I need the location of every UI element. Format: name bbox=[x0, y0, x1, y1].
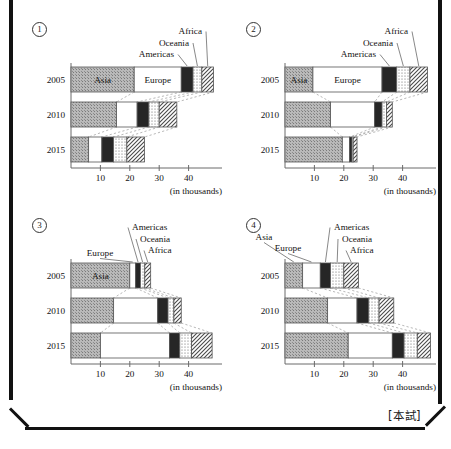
chart-4-connector-line bbox=[320, 288, 357, 298]
chart-1-inbar-label-europe: Europe bbox=[144, 75, 171, 85]
chart-4-bar-row: 2005 bbox=[261, 263, 359, 288]
page-frame-left-rule bbox=[9, 0, 13, 400]
chart-3-segment-africa bbox=[145, 263, 151, 288]
chart-1-connector-line bbox=[145, 127, 177, 137]
chart-panel-2: 2 10203040(in thousands)200520102015Asia… bbox=[236, 12, 446, 207]
chart-1-segment-asia bbox=[71, 137, 89, 162]
chart-2-xtick-30: 30 bbox=[369, 173, 379, 183]
chart-1-segment-oceania bbox=[114, 137, 127, 162]
chart-4-segment-oceania bbox=[404, 333, 417, 358]
chart-2-xtick-10: 10 bbox=[310, 173, 320, 183]
chart-3-segment-europe bbox=[100, 333, 169, 358]
chart-1-xtick-30: 30 bbox=[155, 173, 165, 183]
chart-4-segment-europe bbox=[348, 333, 392, 358]
chart-3-bar-row: 2010 bbox=[47, 298, 182, 323]
chart-3-callout-africa: Africa bbox=[148, 245, 171, 255]
chart-1-xtick-40: 40 bbox=[184, 173, 194, 183]
chart-3-leader-line bbox=[100, 259, 133, 263]
chart-1-segment-oceania bbox=[149, 102, 159, 127]
chart-3-connector-line bbox=[158, 323, 170, 333]
chart-4-segment-africa bbox=[344, 263, 359, 288]
page-frame-corner-bottom-left bbox=[8, 409, 33, 431]
chart-2-segment-africa bbox=[353, 137, 357, 162]
chart-2-plot: 10203040(in thousands)200520102015AsiaEu… bbox=[236, 12, 446, 207]
chart-3-connector-line bbox=[151, 288, 182, 298]
chart-1-bar-row: 2010 bbox=[47, 102, 177, 127]
chart-2-xtick-40: 40 bbox=[398, 173, 408, 183]
chart-3-connector-line bbox=[100, 323, 113, 333]
chart-4-xtick-10: 10 bbox=[310, 369, 320, 379]
chart-4-segment-oceania bbox=[369, 298, 379, 323]
chart-2-connector-line bbox=[353, 127, 386, 137]
chart-2-connector-line bbox=[386, 92, 410, 102]
chart-3-segment-americas bbox=[136, 263, 141, 288]
chart-2-segment-europe bbox=[331, 102, 375, 127]
chart-2-svg: 10203040(in thousands)200520102015AsiaEu… bbox=[236, 12, 446, 207]
chart-3-xtick-20: 20 bbox=[125, 369, 135, 379]
chart-3-callout-europe: Europe bbox=[87, 248, 114, 258]
chart-3-connector-line bbox=[114, 288, 130, 298]
chart-3-year-label: 2005 bbox=[47, 271, 66, 281]
chart-4-callout-africa: Africa bbox=[350, 245, 373, 255]
chart-1-callout-americas: Americas bbox=[139, 49, 175, 59]
chart-1-segment-africa bbox=[202, 67, 214, 92]
chart-4-callout-asia: Asia bbox=[256, 232, 273, 242]
chart-1-units-caption: (in thousands) bbox=[170, 186, 222, 196]
chart-1-leader-line bbox=[178, 55, 187, 67]
chart-3-segment-asia bbox=[71, 298, 114, 323]
chart-3-connector-line bbox=[145, 288, 174, 298]
chart-4-segment-europe bbox=[303, 263, 321, 288]
chart-3-segment-africa bbox=[174, 298, 181, 323]
chart-4-segment-americas bbox=[357, 298, 369, 323]
chart-2-callout-africa: Africa bbox=[385, 26, 408, 36]
chart-2-callout-oceania: Oceania bbox=[363, 38, 393, 48]
chart-4-segment-oceania bbox=[331, 263, 344, 288]
chart-3-segment-europe bbox=[114, 298, 158, 323]
chart-4-connector-line bbox=[328, 323, 349, 333]
chart-2-segment-oceania bbox=[397, 67, 410, 92]
chart-1-segment-europe bbox=[117, 102, 138, 127]
chart-2-bar-row: 2015 bbox=[261, 137, 357, 162]
chart-2-segment-africa bbox=[410, 67, 428, 92]
chart-1-segment-americas bbox=[102, 137, 114, 162]
chart-4-segment-asia bbox=[285, 333, 348, 358]
chart-2-bar-row: 2010 bbox=[261, 102, 393, 127]
chart-2-leader-line bbox=[412, 32, 419, 67]
source-stamp: [本試] bbox=[388, 407, 421, 423]
chart-3-connector-line bbox=[181, 323, 212, 333]
chart-1-segment-europe bbox=[89, 137, 102, 162]
chart-4-connector-line bbox=[359, 288, 394, 298]
chart-2-callout-americas: Americas bbox=[341, 49, 377, 59]
chart-2-year-label: 2010 bbox=[261, 110, 280, 120]
chart-1-year-label: 2005 bbox=[47, 75, 66, 85]
chart-4-svg: 10203040(in thousands)200520102015AsiaEu… bbox=[236, 208, 446, 403]
chart-1-inbar-label-asia: Asia bbox=[94, 75, 111, 85]
chart-3-segment-africa bbox=[192, 333, 213, 358]
chart-1-leader-line bbox=[193, 43, 197, 66]
chart-3-bar-row: 2015 bbox=[47, 333, 212, 358]
chart-3-year-label: 2010 bbox=[47, 306, 66, 316]
chart-3-units-caption: (in thousands) bbox=[170, 382, 222, 392]
chart-1-connector-line bbox=[117, 92, 135, 102]
chart-4-leader-line bbox=[325, 228, 330, 263]
chart-2-inbar-label-asia: Asia bbox=[291, 75, 308, 85]
chart-1-leader-line bbox=[206, 32, 208, 67]
chart-1-segment-africa bbox=[127, 137, 145, 162]
chart-3-inbar-label-asia: Asia bbox=[92, 271, 109, 281]
chart-2-connector-line bbox=[331, 127, 343, 137]
chart-2-year-label: 2005 bbox=[261, 75, 280, 85]
chart-1-callout-oceania: Oceania bbox=[159, 38, 189, 48]
chart-3-segment-asia bbox=[71, 333, 100, 358]
chart-2-segment-americas bbox=[382, 67, 397, 92]
chart-2-segment-americas bbox=[375, 102, 382, 127]
chart-3-segment-oceania bbox=[180, 333, 192, 358]
chart-panel-3: 3 10203040(in thousands)200520102015Asia… bbox=[22, 208, 232, 403]
chart-3-xtick-10: 10 bbox=[96, 369, 106, 379]
chart-4-year-label: 2005 bbox=[261, 271, 280, 281]
chart-2-segment-europe bbox=[342, 137, 349, 162]
chart-panel-4: 4 10203040(in thousands)200520102015Asia… bbox=[236, 208, 446, 403]
chart-4-leader-line bbox=[337, 239, 338, 262]
chart-1-segment-americas bbox=[181, 67, 193, 92]
chart-1-segment-oceania bbox=[193, 67, 202, 92]
chart-4-segment-africa bbox=[379, 298, 394, 323]
